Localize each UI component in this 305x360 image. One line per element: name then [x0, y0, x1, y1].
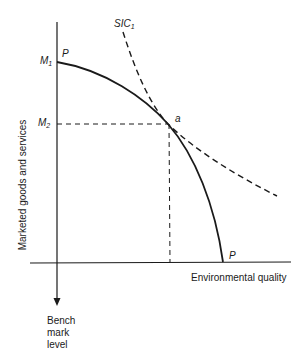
m1-subscript: 1: [48, 60, 52, 67]
m1-label: M1: [40, 56, 52, 67]
x-axis-label: Environmental quality: [191, 273, 287, 283]
m2-subscript: 2: [46, 122, 50, 129]
benchmark-line-2: mark: [47, 327, 75, 339]
benchmark-arrow-icon: [54, 298, 61, 306]
y-axis-label: Marketed goods and services: [17, 120, 28, 251]
ppf-top-label: P: [62, 49, 69, 59]
benchmark-label: Bench mark level: [47, 315, 75, 351]
sic-text: SIC: [114, 18, 131, 29]
sic-curve: [123, 32, 277, 196]
x-axis: [30, 262, 291, 263]
tangency-point-label: a: [175, 114, 181, 124]
ppf-bottom-label: P: [229, 251, 236, 261]
benchmark-line-3: level: [47, 339, 75, 351]
diagram-canvas: [0, 0, 305, 360]
benchmark-line-1: Bench: [47, 315, 75, 327]
sic-subscript: 1: [131, 23, 135, 30]
m2-label: M2: [38, 118, 50, 129]
sic-label: SIC1: [114, 19, 135, 30]
ppf-curve: [57, 62, 223, 262]
quality-projection-line: [169, 124, 170, 262]
